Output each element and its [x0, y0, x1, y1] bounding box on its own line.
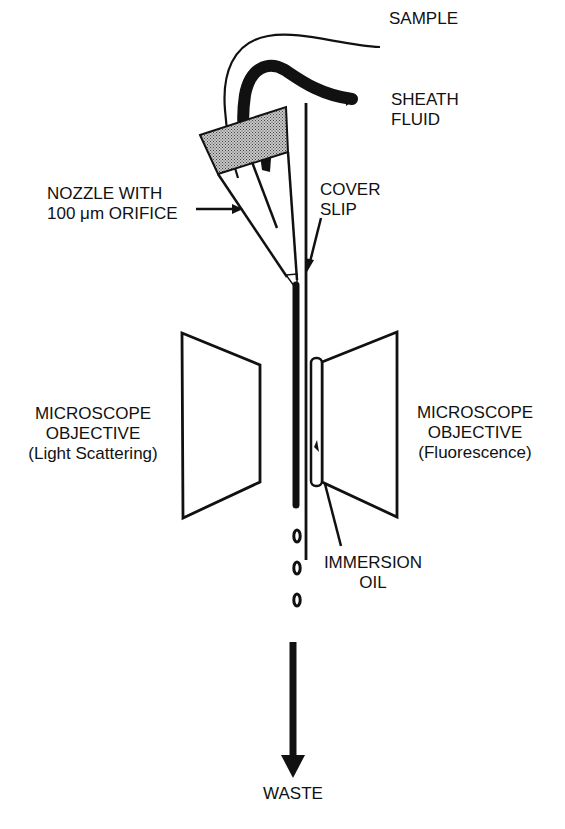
- sheath-fluid-label-line2: FLUID: [391, 110, 440, 130]
- flow-cytometer-diagram: SAMPLE SHEATH FLUID NOZZLE WITH 100 μm O…: [0, 0, 565, 829]
- sheath-fluid-label-line1: SHEATH: [391, 90, 459, 110]
- immersion-oil-pointer-line: [325, 484, 341, 546]
- fluorescence-objective: [322, 332, 397, 517]
- nozzle-arrow-icon: [232, 204, 243, 214]
- fluorescence-label-line2: OBJECTIVE: [400, 423, 550, 443]
- waste-label: WASTE: [243, 784, 343, 804]
- immersion-oil-label-line2: OIL: [318, 573, 428, 593]
- droplet: [294, 562, 300, 574]
- immersion-oil-label-line1: IMMERSION: [318, 553, 428, 573]
- nozzle-right-wall: [288, 152, 297, 280]
- cover-slip-pointer-line: [310, 218, 321, 262]
- cover-slip-label-line2: SLIP: [320, 200, 357, 220]
- light-scattering-label-line1: MICROSCOPE: [18, 404, 168, 424]
- light-scattering-label-line2: OBJECTIVE: [18, 424, 168, 444]
- nozzle-label-line1: NOZZLE WITH: [47, 184, 162, 204]
- sample-label: SAMPLE: [389, 9, 458, 29]
- fluorescence-label-line3: (Fluorescence): [400, 443, 550, 463]
- droplet: [294, 594, 300, 606]
- fluorescence-label-line1: MICROSCOPE: [400, 403, 550, 423]
- cover-slip-label-line1: COVER: [320, 180, 380, 200]
- light-scattering-label-line3: (Light Scattering): [18, 444, 168, 464]
- nozzle-label-line2: 100 μm ORIFICE: [47, 204, 178, 224]
- immersion-oil: [311, 358, 322, 486]
- sample-needle: [252, 162, 277, 228]
- droplet: [294, 530, 300, 542]
- waste-arrow-icon: [281, 755, 305, 778]
- light-scattering-objective: [182, 333, 260, 518]
